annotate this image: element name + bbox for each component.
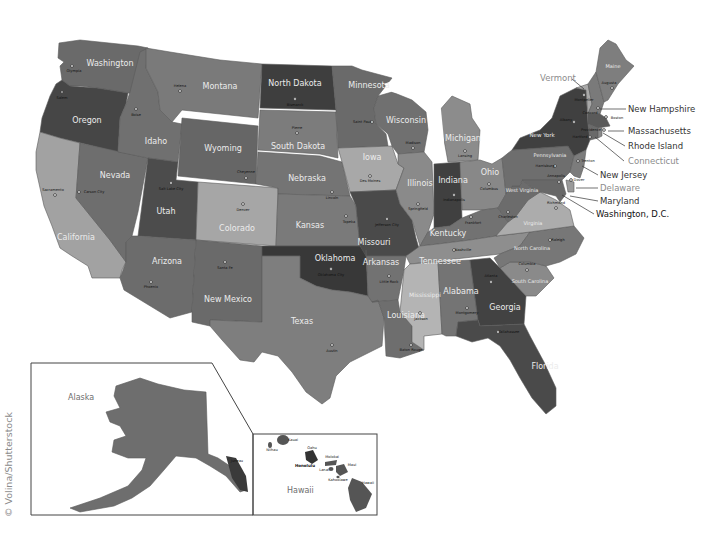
svg-text:Denver: Denver — [236, 208, 250, 212]
svg-text:Niihau: Niihau — [266, 448, 277, 452]
label-illinois: Illinois — [407, 179, 432, 188]
label-alabama: Alabama — [443, 287, 478, 296]
capital-boston: Boston — [605, 116, 624, 120]
state-michigan[interactable] — [438, 96, 480, 162]
svg-text:Santa Fe: Santa Fe — [217, 266, 233, 270]
svg-text:Jackson: Jackson — [413, 317, 428, 321]
label-iowa: Iowa — [363, 153, 382, 162]
svg-text:Frankfort: Frankfort — [465, 221, 482, 225]
label-north-carolina: North Carolina — [514, 245, 550, 251]
svg-text:Jefferson City: Jefferson City — [374, 223, 400, 227]
callout-massachusetts: Massachusetts — [628, 126, 691, 136]
svg-text:Lanai: Lanai — [319, 468, 329, 472]
capital-harrisburg: Harrisburg — [536, 164, 557, 168]
label-oklahoma: Oklahoma — [315, 254, 356, 263]
island-oahu — [305, 450, 318, 464]
island-lanai — [329, 467, 334, 471]
state-arizona[interactable] — [120, 236, 196, 318]
callout-washington-dc: Washington, D.C. — [596, 209, 669, 219]
us-map: Washington Oregon California Nevada Idah… — [0, 0, 702, 545]
callout-connecticut: Connecticut — [628, 156, 680, 166]
island-molokai — [325, 460, 337, 466]
svg-text:Baton Rouge: Baton Rouge — [400, 348, 424, 352]
label-tennessee: Tennessee — [418, 257, 461, 266]
svg-text:Des Moines: Des Moines — [360, 179, 381, 183]
svg-text:Trenton: Trenton — [580, 159, 594, 163]
state-new-mexico[interactable] — [192, 240, 262, 326]
svg-text:Saint Paul: Saint Paul — [353, 120, 371, 124]
state-colorado[interactable] — [196, 182, 278, 246]
label-kansas: Kansas — [296, 221, 324, 230]
svg-text:Topeka: Topeka — [342, 220, 356, 224]
label-texas: Texas — [290, 317, 313, 326]
svg-text:Richmond: Richmond — [547, 201, 565, 205]
svg-text:Pierre: Pierre — [292, 126, 303, 130]
svg-text:Helena: Helena — [174, 84, 187, 88]
label-wyoming: Wyoming — [204, 144, 242, 153]
svg-text:Concord: Concord — [583, 111, 598, 115]
label-north-dakota: North Dakota — [268, 79, 321, 88]
label-washington: Washington — [86, 59, 133, 68]
capital-nashville: Nashville — [453, 248, 472, 252]
label-georgia: Georgia — [489, 303, 520, 312]
label-south-carolina: South Carolina — [512, 278, 549, 284]
state-alaska[interactable] — [70, 378, 246, 512]
label-new-york: New York — [529, 132, 555, 138]
label-south-dakota: South Dakota — [271, 142, 325, 151]
svg-text:Springfield: Springfield — [408, 207, 427, 211]
svg-text:Oklahoma City: Oklahoma City — [318, 273, 345, 277]
svg-text:Annapolis: Annapolis — [547, 174, 565, 178]
svg-text:Boston: Boston — [611, 116, 623, 120]
svg-text:Kahoolawe: Kahoolawe — [328, 478, 348, 482]
label-minnesota: Minnesota — [348, 81, 389, 90]
callout-maryland: Maryland — [600, 196, 639, 206]
svg-text:Lansing: Lansing — [458, 154, 472, 158]
label-pennsylvania: Pennsylvania — [534, 152, 567, 159]
lake-superior — [384, 70, 452, 96]
svg-text:Lincoln: Lincoln — [326, 196, 339, 200]
callout-rhode-island: Rhode Island — [628, 141, 683, 151]
svg-text:Providence: Providence — [581, 128, 602, 132]
svg-text:Oahu: Oahu — [307, 446, 317, 450]
label-kentucky: Kentucky — [430, 229, 467, 238]
capital-saint-paul: Saint Paul — [353, 120, 373, 124]
label-florida: Florida — [531, 362, 558, 371]
svg-text:Juneau: Juneau — [230, 459, 243, 463]
svg-text:Madison: Madison — [406, 141, 421, 145]
label-hawaii: Hawaii — [287, 486, 314, 495]
capital-raleigh: Raleigh — [549, 238, 565, 242]
svg-text:Charleston: Charleston — [498, 215, 517, 219]
label-idaho: Idaho — [145, 137, 167, 146]
label-ohio: Ohio — [481, 168, 500, 177]
state-maine[interactable] — [596, 40, 634, 102]
svg-text:Columbia: Columbia — [519, 262, 536, 266]
alaska-inset: Juneau — [31, 363, 253, 515]
label-maine: Maine — [605, 63, 620, 69]
svg-text:Bismarck: Bismarck — [287, 103, 304, 107]
label-wisconsin: Wisconsin — [386, 116, 426, 125]
svg-text:Kauai: Kauai — [288, 438, 298, 442]
label-missouri: Missouri — [358, 238, 391, 247]
svg-text:Boise: Boise — [131, 113, 142, 117]
svg-text:Columbus: Columbus — [480, 187, 498, 191]
state-indiana[interactable] — [434, 162, 462, 228]
svg-text:Nashville: Nashville — [455, 248, 472, 252]
label-california: California — [57, 233, 95, 242]
capital-honolulu: Honolulu — [295, 463, 315, 468]
callout-delaware: Delaware — [600, 183, 640, 193]
svg-text:Harrisburg: Harrisburg — [536, 164, 555, 168]
svg-text:Tallahassee: Tallahassee — [498, 330, 520, 334]
svg-text:Dover: Dover — [574, 178, 585, 182]
island-maui — [336, 464, 348, 476]
label-nevada: Nevada — [100, 171, 131, 180]
label-new-mexico: New Mexico — [204, 295, 252, 304]
label-arizona: Arizona — [152, 257, 182, 266]
svg-text:Montpelier: Montpelier — [574, 98, 594, 102]
svg-text:Raleigh: Raleigh — [551, 238, 564, 242]
svg-text:Augusta: Augusta — [602, 81, 617, 85]
svg-text:Salt Lake City: Salt Lake City — [159, 187, 184, 191]
capital-dover: Dover — [570, 178, 585, 182]
svg-text:Hawaii: Hawaii — [362, 481, 374, 485]
callout-new-jersey: New Jersey — [600, 170, 647, 180]
svg-text:Sacramento: Sacramento — [42, 188, 64, 192]
